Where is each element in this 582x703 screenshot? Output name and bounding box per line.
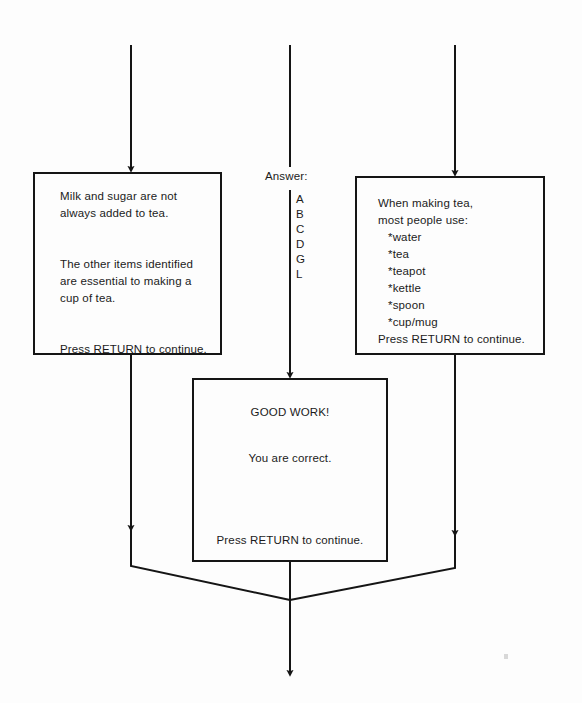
answer-letter: D <box>296 237 305 252</box>
good-work-footer: Press RETURN to continue. <box>194 532 386 549</box>
right-answer-text: When making tea, most people use: *water… <box>378 195 525 348</box>
good-work-box: GOOD WORK! You are correct. Press RETURN… <box>192 378 388 562</box>
left-feedback-text: Milk and sugar are not always added to t… <box>60 188 207 358</box>
answer-letter-list: A B C D G L <box>296 192 305 282</box>
answer-letter: G <box>296 252 305 267</box>
right-answer-box: When making tea, most people use: *water… <box>355 176 545 355</box>
answer-letter: A <box>296 192 305 207</box>
answer-letter: B <box>296 207 305 222</box>
flowchart-canvas: Milk and sugar are not always added to t… <box>0 0 582 703</box>
left-feedback-box: Milk and sugar are not always added to t… <box>33 172 222 355</box>
scan-artifact-speck <box>504 654 508 659</box>
answer-letter: C <box>296 222 305 237</box>
good-work-body: You are correct. <box>194 450 386 467</box>
good-work-heading: GOOD WORK! <box>194 404 386 421</box>
answer-label: Answer: <box>265 169 308 183</box>
answer-letter: L <box>296 267 305 282</box>
